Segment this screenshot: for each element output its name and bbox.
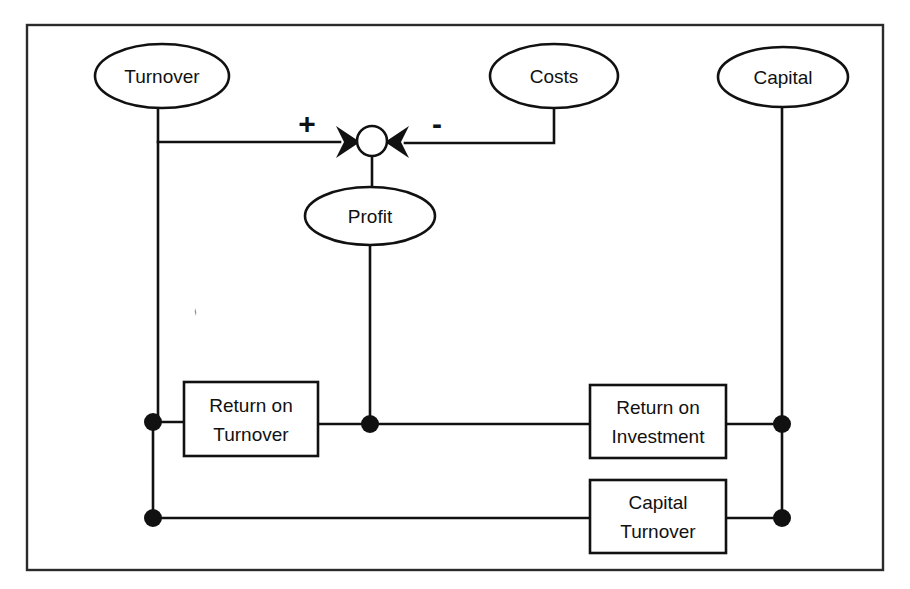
profit-summing-junction[interactable] <box>357 126 387 156</box>
node-capital[interactable]: Capital <box>718 47 848 107</box>
costs-label: Costs <box>530 66 579 87</box>
capital-label: Capital <box>753 67 812 88</box>
node-turnover[interactable]: Turnover <box>95 44 229 108</box>
plus-sign: + <box>298 107 316 140</box>
diagram-root: + - Turnover Costs Capital Profit Return… <box>0 0 910 589</box>
return-on-turnover-label-line1: Return on <box>209 395 292 416</box>
dot-profit-roturnover <box>361 415 379 433</box>
return-on-investment-box[interactable] <box>590 385 726 458</box>
node-return-on-turnover[interactable]: Return on Turnover <box>184 382 318 456</box>
dot-capital-capitalturnover <box>773 509 791 527</box>
dot-turnover-roturnover <box>144 413 162 431</box>
edge-costs-to-junction <box>405 108 554 143</box>
capital-turnover-label-line1: Capital <box>628 492 687 513</box>
return-on-investment-label-line2: Investment <box>612 426 706 447</box>
diagram-canvas: + - Turnover Costs Capital Profit Return… <box>0 0 910 589</box>
node-return-on-investment[interactable]: Return on Investment <box>590 385 726 458</box>
scan-speck-artifact <box>195 308 197 316</box>
turnover-label: Turnover <box>124 66 200 87</box>
return-on-investment-label-line1: Return on <box>616 397 699 418</box>
node-costs[interactable]: Costs <box>490 44 618 108</box>
return-on-turnover-label-line2: Turnover <box>213 424 289 445</box>
minus-sign: - <box>432 107 442 140</box>
dot-capital-roi <box>773 415 791 433</box>
node-profit[interactable]: Profit <box>305 187 435 245</box>
node-capital-turnover[interactable]: Capital Turnover <box>590 480 726 553</box>
profit-label: Profit <box>348 206 393 227</box>
dot-turnover-capitalturnover <box>144 509 162 527</box>
capital-turnover-box[interactable] <box>590 480 726 553</box>
capital-turnover-label-line2: Turnover <box>620 521 696 542</box>
